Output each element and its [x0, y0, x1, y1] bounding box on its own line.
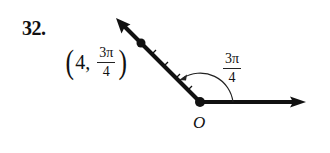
origin-point [195, 97, 205, 107]
plotted-point [137, 39, 146, 48]
polar-diagram [0, 0, 330, 153]
ray-tick-marks [152, 50, 192, 90]
angle-arc-arrowhead-icon [179, 75, 187, 81]
terminal-ray [124, 26, 200, 102]
